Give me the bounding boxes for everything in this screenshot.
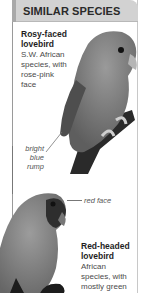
annotation-leader-line (67, 200, 82, 201)
species-name: Rosy-faced lovebird (21, 29, 67, 49)
annotation-line: rump (16, 162, 44, 171)
species-description: S.W. African species, with rose-pink fac… (21, 50, 67, 90)
description-line: species, with (21, 60, 67, 70)
description-line: rose-pink (21, 70, 67, 80)
description-line: species, with (81, 272, 127, 282)
annotation-leader-line (12, 146, 13, 194)
species-name-line: Red-headed (81, 241, 130, 251)
species-name-line: lovebird (21, 39, 67, 49)
description-line: S.W. African (21, 50, 67, 60)
header-accent-strip (12, 0, 16, 22)
annotation-line: blue (16, 153, 44, 162)
panel-title: SIMILAR SPECIES (23, 5, 120, 17)
description-line: face (21, 80, 67, 90)
annotation-line: bright (16, 144, 44, 153)
species-name: Red-headed lovebird (81, 241, 130, 261)
species-name-line: Rosy-faced (21, 29, 67, 39)
annotation-label: bright blue rump (16, 144, 44, 171)
annotation-leader-line (44, 130, 64, 154)
description-line: mostly green (81, 282, 127, 292)
species-name-line: lovebird (81, 251, 130, 261)
description-line: African (81, 262, 127, 272)
annotation-label: red face (84, 196, 111, 205)
species-description: African species, with mostly green (81, 262, 127, 292)
red-headed-lovebird-image (0, 188, 80, 293)
